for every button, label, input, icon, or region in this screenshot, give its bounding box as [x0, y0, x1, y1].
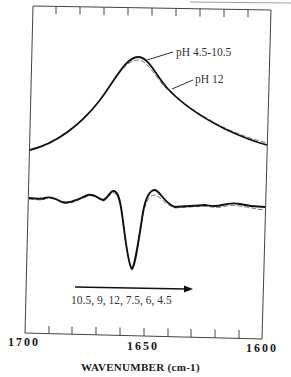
leader-ph12	[172, 80, 193, 89]
x-tick-1600: 1600	[246, 341, 278, 355]
x-tick-1700: 1700	[8, 335, 40, 349]
ph-order-sequence: 10.5, 9, 12, 7.5, 6, 4.5	[71, 294, 172, 307]
annotation-ph-range: pH 4.5-10.5	[176, 46, 232, 59]
annotation-ph12: pH 12	[195, 73, 224, 86]
page-edge	[190, 2, 291, 3]
leader-ph-range	[147, 52, 173, 60]
x-tick-1650: 1650	[127, 339, 159, 353]
plot-frame	[25, 6, 271, 339]
spectrum-figure: pH 4.5-10.5 pH 12 10.5, 9, 12, 7.5, 6, 4…	[0, 0, 291, 377]
top-ticks	[56, 6, 248, 17]
ph-order-arrow-shaft	[75, 287, 186, 289]
curve-ph-4.5-10.5-solid	[30, 57, 267, 150]
arrow-right-icon	[184, 286, 193, 293]
x-axis-title: WAVENUMBER (cm-1)	[81, 361, 200, 374]
curve-ph-12-dashed	[30, 60, 267, 150]
bottom-ticks	[49, 326, 239, 338]
